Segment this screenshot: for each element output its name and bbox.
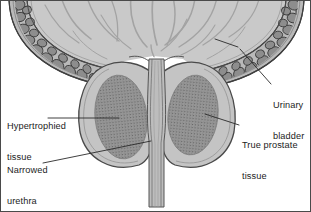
label-true-prostate-tissue-line1: True prostate [242, 140, 298, 150]
label-narrowed-urethra-line1: Narrowed [7, 165, 48, 175]
label-true-prostate-tissue: True prostate tissue [242, 119, 298, 202]
label-narrowed-urethra-line2: urethra [7, 196, 48, 206]
label-urinary-bladder-line1: Urinary [273, 100, 304, 110]
prostate-left-lobe [79, 62, 152, 167]
label-hypertrophied-tissue-line1: Hypertrophied [7, 121, 66, 131]
label-narrowed-urethra: Narrowed urethra [7, 144, 48, 212]
label-true-prostate-tissue-line2: tissue [242, 171, 298, 181]
prostate-hypertrophy-illustration: Hypertrophied tissue Narrowed urethra Ur… [0, 0, 311, 212]
